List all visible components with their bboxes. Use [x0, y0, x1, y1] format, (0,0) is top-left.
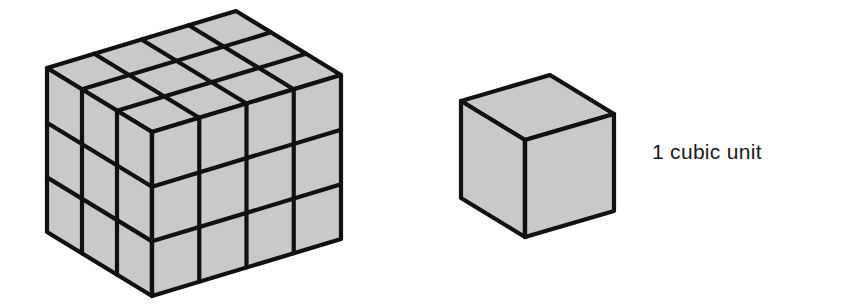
unit-cube	[461, 75, 614, 237]
unit-cube-label: 1 cubic unit	[652, 140, 762, 164]
rectangular-prism	[47, 11, 341, 296]
